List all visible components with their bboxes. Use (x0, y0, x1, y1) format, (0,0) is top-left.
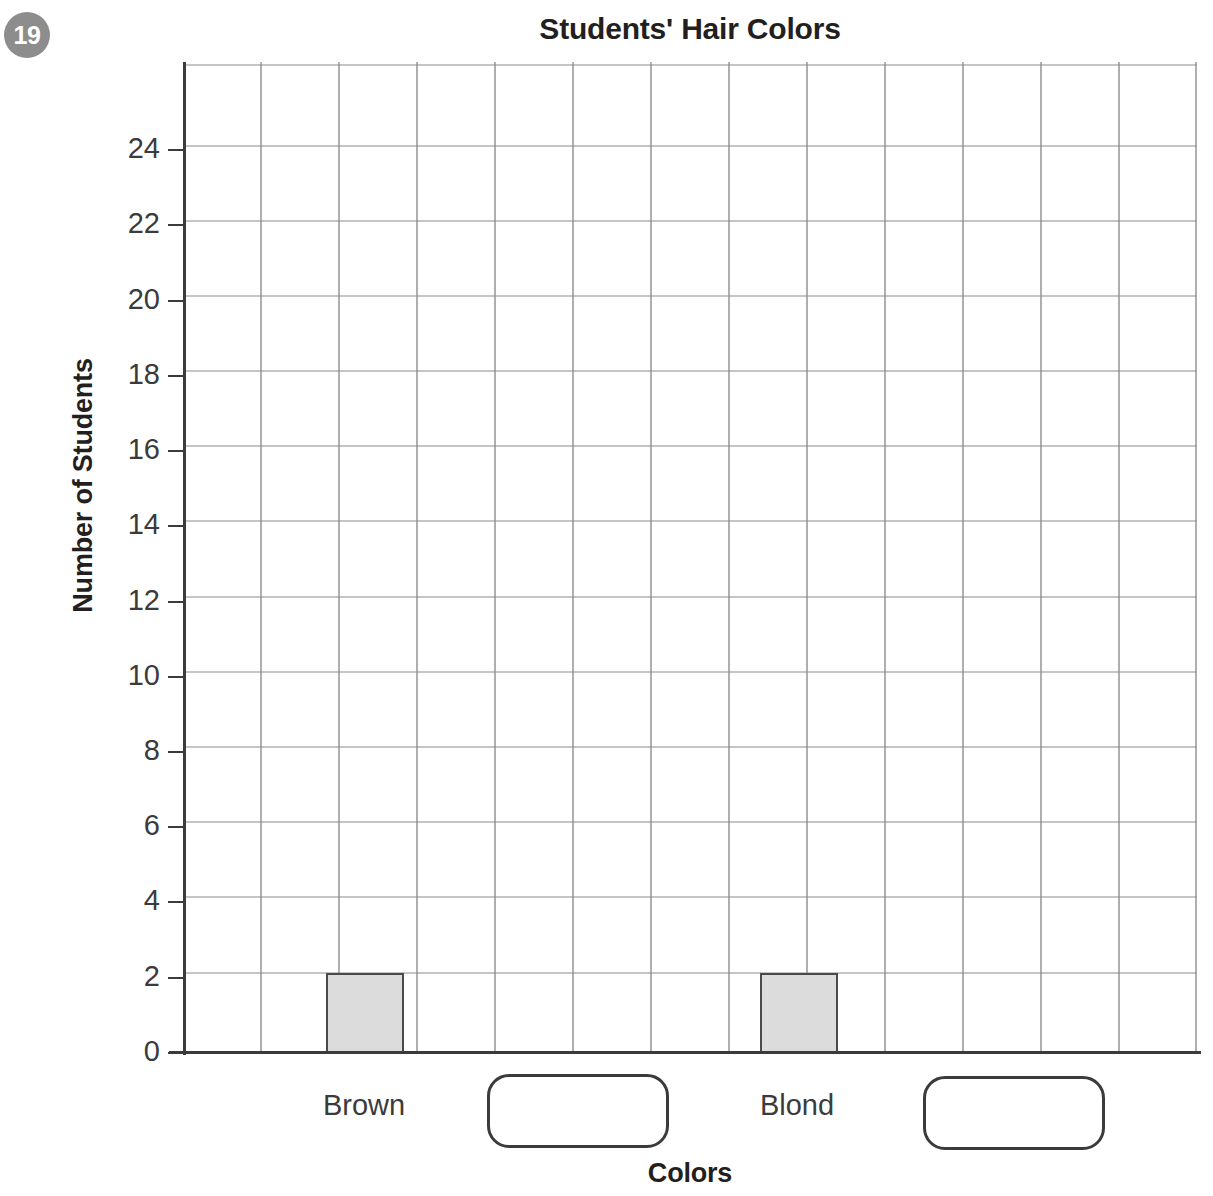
y-tick-label-18: 18 (100, 360, 160, 389)
y-tick-label-0: 0 (100, 1037, 160, 1066)
answer-box-1[interactable] (487, 1074, 669, 1148)
y-tick-14 (168, 525, 185, 527)
chart-title: Students' Hair Colors (183, 12, 1197, 46)
y-axis-title: Number of Students (68, 321, 99, 651)
y-tick-label-2: 2 (100, 962, 160, 991)
y-tick-6 (168, 826, 185, 828)
y-tick-label-22: 22 (100, 209, 160, 238)
x-axis-line (169, 1051, 1201, 1054)
plot-area (183, 62, 1197, 1053)
y-tick-4 (168, 901, 185, 903)
y-tick-label-16: 16 (100, 435, 160, 464)
y-tick-label-24: 24 (100, 134, 160, 163)
y-tick-16 (168, 450, 185, 452)
y-axis-line (183, 62, 186, 1055)
bar-brown (326, 973, 404, 1053)
y-tick-12 (168, 601, 185, 603)
bar-blond (760, 973, 838, 1053)
y-tick-2 (168, 977, 185, 979)
question-number-badge: 19 (4, 12, 50, 58)
y-tick-label-10: 10 (100, 661, 160, 690)
answer-box-2[interactable] (923, 1076, 1105, 1150)
y-tick-10 (168, 676, 185, 678)
y-tick-label-6: 6 (100, 811, 160, 840)
y-tick-8 (168, 751, 185, 753)
grid-lines (183, 62, 1197, 1053)
x-label-brown: Brown (274, 1091, 454, 1120)
y-tick-label-12: 12 (100, 586, 160, 615)
y-tick-18 (168, 375, 185, 377)
y-tick-label-8: 8 (100, 736, 160, 765)
x-axis-title: Colors (183, 1158, 1197, 1189)
y-tick-22 (168, 224, 185, 226)
y-tick-label-14: 14 (100, 510, 160, 539)
y-tick-label-4: 4 (100, 886, 160, 915)
worksheet-page: 19 Students' Hair Colors Number of Stude… (0, 0, 1213, 1196)
y-tick-label-20: 20 (100, 285, 160, 314)
y-tick-0 (168, 1052, 185, 1054)
x-label-blond: Blond (707, 1091, 887, 1120)
y-tick-24 (168, 149, 185, 151)
y-tick-20 (168, 300, 185, 302)
